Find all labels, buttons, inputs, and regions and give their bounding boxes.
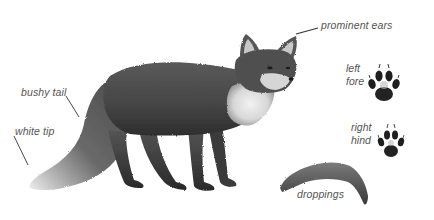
- label-droppings: droppings: [297, 188, 344, 200]
- label-left-fore-line2: fore: [346, 75, 364, 88]
- label-right-hind: right hind: [351, 121, 371, 147]
- leader-line-white-tip: [14, 136, 28, 165]
- paw-print-icon: [377, 124, 405, 157]
- fox-drawing: [0, 0, 434, 220]
- label-right-hind-line1: right: [351, 121, 371, 134]
- leader-line-prominent-ears: [296, 28, 318, 34]
- paw-print-icon: [367, 64, 401, 101]
- leader-line-bushy-tail: [66, 96, 79, 117]
- label-left-fore-line1: left: [346, 62, 364, 75]
- label-bushy-tail: bushy tail: [21, 86, 66, 98]
- fox-hind-legs: [108, 126, 187, 190]
- fox-identification-illustration: prominent ears bushy tail white tip left…: [0, 0, 434, 220]
- label-prominent-ears: prominent ears: [321, 19, 392, 31]
- label-right-hind-line2: hind: [351, 134, 371, 147]
- fox-head: [235, 34, 297, 93]
- label-left-fore: left fore: [346, 62, 364, 88]
- label-white-tip: white tip: [15, 125, 54, 137]
